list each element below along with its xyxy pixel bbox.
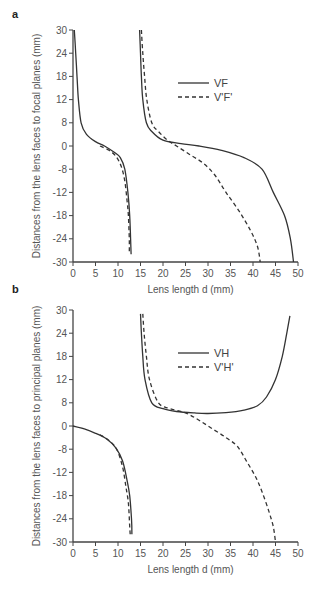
y-tick-label: -8 <box>58 444 67 455</box>
x-tick-label: 10 <box>112 548 124 559</box>
x-tick-label: 40 <box>247 548 259 559</box>
y-tick-label: -18 <box>53 210 68 221</box>
x-tick-label: 50 <box>292 268 304 279</box>
x-tick-label: 20 <box>157 268 169 279</box>
y-tick-label: -12 <box>53 467 68 478</box>
chart-b: 3024181280-8-12-18-24-300510152025303540… <box>31 305 304 576</box>
y-tick-label: -24 <box>53 233 68 244</box>
y-tick-label: -24 <box>53 513 68 524</box>
y-tick-label: 0 <box>61 141 67 152</box>
y-tick-label: 0 <box>61 421 67 432</box>
x-tick-label: 10 <box>112 268 124 279</box>
y-tick-label: -30 <box>53 257 68 268</box>
y-tick-label: 12 <box>56 374 68 385</box>
y-axis-title: Distances from the lens faces to focal p… <box>31 34 42 259</box>
x-tick-label: 50 <box>292 548 304 559</box>
y-tick-label: -12 <box>53 187 68 198</box>
x-tick-label: 45 <box>270 268 282 279</box>
y-tick-label: 8 <box>61 397 67 408</box>
legend-label: VF <box>214 77 228 89</box>
series-line-vh <box>73 426 132 534</box>
series-line-vphp <box>143 314 276 542</box>
y-tick-label: 12 <box>56 94 68 105</box>
figure-canvas: 3024181280-8-12-18-24-300510152025303540… <box>0 0 314 593</box>
y-tick-label: -18 <box>53 490 68 501</box>
y-tick-label: 30 <box>56 25 68 36</box>
y-tick-label: 8 <box>61 117 67 128</box>
x-tick-label: 35 <box>225 268 237 279</box>
x-axis-title: Lens length d (mm) <box>147 284 233 295</box>
x-tick-label: 0 <box>70 268 76 279</box>
chart-a: 3024181280-8-12-18-24-300510152025303540… <box>31 25 304 296</box>
x-tick-label: 40 <box>247 268 259 279</box>
x-tick-label: 15 <box>135 548 147 559</box>
y-axis-title: Distances from the lens faces to princip… <box>31 306 42 547</box>
x-tick-label: 35 <box>225 548 237 559</box>
x-tick-label: 25 <box>180 268 192 279</box>
legend-label: V'F' <box>214 91 232 103</box>
x-axis-title: Lens length d (mm) <box>147 564 233 575</box>
y-tick-label: 24 <box>56 48 68 59</box>
legend-label: VH <box>214 347 229 359</box>
x-tick-label: 5 <box>93 268 99 279</box>
y-tick-label: 18 <box>56 351 68 362</box>
y-tick-label: 18 <box>56 71 68 82</box>
series-line-vphp <box>100 435 130 535</box>
legend-label: V'H' <box>214 361 233 373</box>
x-tick-label: 25 <box>180 548 192 559</box>
y-tick-label: -30 <box>53 537 68 548</box>
x-tick-label: 30 <box>202 268 214 279</box>
y-tick-label: 24 <box>56 328 68 339</box>
x-tick-label: 20 <box>157 548 169 559</box>
x-tick-label: 5 <box>93 548 99 559</box>
x-tick-label: 0 <box>70 548 76 559</box>
y-tick-label: -8 <box>58 164 67 175</box>
series-line-vpfp <box>100 146 129 254</box>
series-line-vf <box>140 30 294 262</box>
series-line-vf <box>74 30 131 254</box>
y-tick-label: 30 <box>56 305 68 316</box>
x-tick-label: 45 <box>270 548 282 559</box>
x-tick-label: 15 <box>135 268 147 279</box>
x-tick-label: 30 <box>202 548 214 559</box>
